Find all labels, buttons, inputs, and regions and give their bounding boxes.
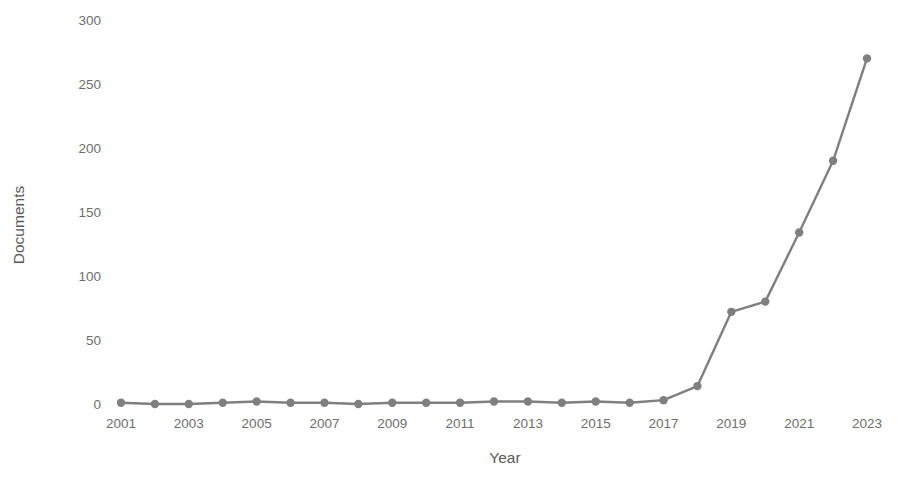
y-axis-title: Documents bbox=[10, 186, 27, 265]
y-tick-label: 100 bbox=[78, 269, 101, 284]
data-point-marker bbox=[388, 399, 396, 407]
data-point-marker bbox=[252, 397, 260, 405]
x-tick-label: 2023 bbox=[852, 416, 882, 431]
x-tick-label: 2003 bbox=[174, 416, 204, 431]
data-point-marker bbox=[558, 399, 566, 407]
x-tick-label: 2017 bbox=[649, 416, 679, 431]
y-tick-label: 0 bbox=[93, 397, 101, 412]
data-point-marker bbox=[659, 396, 667, 404]
x-tick-label: 2011 bbox=[446, 416, 475, 431]
data-point-marker bbox=[320, 399, 328, 407]
data-point-marker bbox=[761, 297, 769, 305]
data-point-marker bbox=[625, 399, 633, 407]
data-point-marker bbox=[219, 399, 227, 407]
chart-canvas: 050100150200250300 200120032005200720092… bbox=[0, 0, 901, 478]
data-point-marker bbox=[422, 399, 430, 407]
x-tick-label: 2021 bbox=[784, 416, 814, 431]
x-tick-label: 2005 bbox=[242, 416, 272, 431]
y-tick-label: 250 bbox=[78, 77, 101, 92]
data-point-marker bbox=[286, 399, 294, 407]
y-tick-label: 150 bbox=[78, 205, 101, 220]
y-tick-label: 200 bbox=[78, 141, 101, 156]
data-point-marker bbox=[354, 400, 362, 408]
data-point-marker bbox=[490, 397, 498, 405]
x-tick-label: 2019 bbox=[716, 416, 746, 431]
data-point-marker bbox=[151, 400, 159, 408]
x-tick-label: 2015 bbox=[581, 416, 611, 431]
x-tick-label: 2009 bbox=[377, 416, 407, 431]
data-point-marker bbox=[693, 382, 701, 390]
x-axis-title: Year bbox=[489, 449, 520, 466]
data-point-marker bbox=[829, 157, 837, 165]
data-point-marker bbox=[117, 399, 125, 407]
data-point-marker bbox=[795, 228, 803, 236]
data-point-marker bbox=[863, 54, 871, 62]
data-point-marker bbox=[185, 400, 193, 408]
chart-background bbox=[0, 0, 901, 478]
y-tick-label: 50 bbox=[86, 333, 101, 348]
data-point-marker bbox=[456, 399, 464, 407]
data-point-marker bbox=[727, 308, 735, 316]
data-point-marker bbox=[524, 397, 532, 405]
data-point-marker bbox=[592, 397, 600, 405]
x-tick-label: 2001 bbox=[106, 416, 136, 431]
y-tick-label: 300 bbox=[78, 13, 101, 28]
x-tick-label: 2007 bbox=[309, 416, 339, 431]
line-chart: 050100150200250300 200120032005200720092… bbox=[0, 0, 901, 478]
x-tick-label: 2013 bbox=[513, 416, 543, 431]
